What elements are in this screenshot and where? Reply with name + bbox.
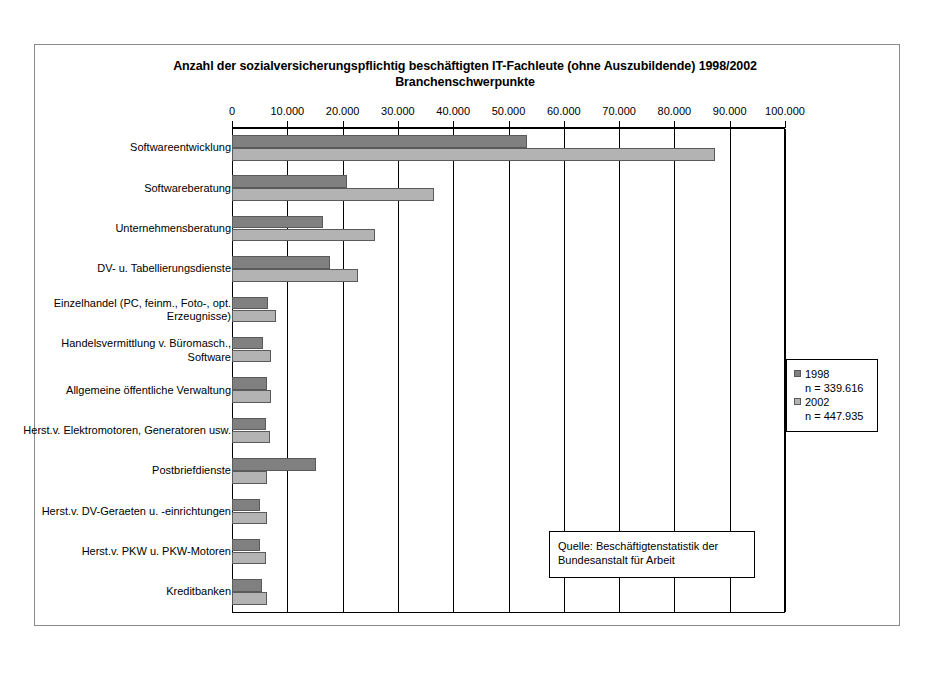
bar-group: [232, 411, 785, 451]
bar-2002: [232, 310, 276, 323]
chart-title: Anzahl der sozialversicherungspflichtig …: [60, 58, 870, 90]
bar-2002: [232, 269, 358, 282]
legend-label-2002: 2002: [805, 395, 829, 409]
source-note-line1: Quelle: Beschäftigtenstatistik der: [558, 539, 746, 553]
bar-1998: [232, 175, 347, 188]
x-axis-tick-label: 80.000: [658, 105, 692, 117]
x-axis-tick: [453, 121, 454, 128]
category-label: Herst.v. PKW u. PKW-Motoren: [16, 545, 231, 559]
legend-label-1998: 1998: [805, 367, 829, 381]
x-axis-tick-label: 10.000: [270, 105, 304, 117]
x-axis-tick-label: 90.000: [713, 105, 747, 117]
x-axis-tick-label: 70.000: [602, 105, 636, 117]
bar-2002: [232, 471, 267, 484]
x-axis-tick: [343, 121, 344, 128]
bar-group: [232, 492, 785, 532]
source-note-line2: Bundesanstalt für Arbeit: [558, 553, 746, 567]
x-axis-tick-label: 100.000: [765, 105, 805, 117]
legend-item-2002: 2002: [794, 395, 871, 409]
x-axis-tick: [785, 121, 786, 128]
bar-1998: [232, 539, 260, 552]
chart-title-line1: Anzahl der sozialversicherungspflichtig …: [60, 58, 870, 74]
x-axis-tick: [232, 121, 233, 128]
x-axis-tick: [674, 121, 675, 128]
bar-group: [232, 451, 785, 491]
bar-group: [232, 249, 785, 289]
bar-2002: [232, 552, 266, 565]
bar-2002: [232, 350, 271, 363]
x-axis-tick: [564, 121, 565, 128]
x-axis-tick-label: 60.000: [547, 105, 581, 117]
legend-item-1998: 1998: [794, 367, 871, 381]
x-axis-tick-label: 30.000: [381, 105, 415, 117]
bar-1998: [232, 337, 263, 350]
chart-category-row: Herst.v. PKW u. PKW-Motoren: [0, 532, 934, 572]
bar-1998: [232, 216, 323, 229]
bar-1998: [232, 418, 266, 431]
bar-group: [232, 330, 785, 370]
bar-1998: [232, 297, 268, 310]
category-label: Softwareberatung: [16, 182, 231, 196]
x-axis-tick-label: 20.000: [326, 105, 360, 117]
chart-category-row: Herst.v. DV-Geraeten u. -einrichtungen: [0, 492, 934, 532]
chart-category-row: Softwareentwicklung: [0, 128, 934, 168]
category-label: Allgemeine öffentliche Verwaltung: [16, 384, 231, 398]
bar-1998: [232, 458, 316, 471]
x-axis-tick-label: 50.000: [492, 105, 526, 117]
bar-1998: [232, 135, 527, 148]
chart-category-row: Kreditbanken: [0, 572, 934, 612]
x-axis-tick: [619, 121, 620, 128]
bar-2002: [232, 431, 270, 444]
chart-category-row: Einzelhandel (PC, feinm., Foto-, opt. Er…: [0, 290, 934, 330]
category-label: Herst.v. DV-Geraeten u. -einrichtungen: [16, 505, 231, 519]
bar-2002: [232, 390, 271, 403]
category-label: Einzelhandel (PC, feinm., Foto-, opt. Er…: [16, 296, 231, 323]
bar-group: [232, 572, 785, 612]
bar-group: [232, 290, 785, 330]
chart-legend: 1998 n = 339.616 2002 n = 447.935: [786, 359, 878, 432]
x-axis-tick-label: 0: [229, 105, 235, 117]
legend-swatch-1998-icon: [794, 370, 801, 377]
category-label: DV- u. Tabellierungsdienste: [16, 263, 231, 277]
legend-n-1998: n = 339.616: [805, 381, 871, 395]
bar-1998: [232, 499, 260, 512]
chart-page: Anzahl der sozialversicherungspflichtig …: [0, 0, 934, 675]
x-axis-tick: [398, 121, 399, 128]
x-axis-tick: [287, 121, 288, 128]
bar-2002: [232, 229, 375, 242]
bar-2002: [232, 188, 434, 201]
bar-1998: [232, 377, 267, 390]
x-axis-tick-label: 40.000: [436, 105, 470, 117]
bar-2002: [232, 592, 267, 605]
bar-group: [232, 128, 785, 168]
category-label: Postbriefdienste: [16, 465, 231, 479]
bar-1998: [232, 579, 262, 592]
bar-group: [232, 209, 785, 249]
bar-2002: [232, 148, 715, 161]
bar-1998: [232, 256, 330, 269]
bar-group: [232, 168, 785, 208]
chart-category-row: Unternehmensberatung: [0, 209, 934, 249]
chart-category-row: Postbriefdienste: [0, 451, 934, 491]
chart-title-line2: Branchenschwerpunkte: [60, 74, 870, 90]
bar-group: [232, 370, 785, 410]
category-label: Unternehmensberatung: [16, 222, 231, 236]
source-note-box: Quelle: Beschäftigtenstatistik der Bunde…: [549, 531, 755, 578]
category-label: Softwareentwicklung: [16, 141, 231, 155]
chart-category-row: DV- u. Tabellierungsdienste: [0, 249, 934, 289]
legend-swatch-2002-icon: [794, 398, 801, 405]
chart-category-row: Softwareberatung: [0, 168, 934, 208]
category-label: Handelsvermittlung v. Büromasch., Softwa…: [16, 337, 231, 364]
category-label: Herst.v. Elektromotoren, Generatoren usw…: [16, 424, 231, 438]
category-label: Kreditbanken: [16, 586, 231, 600]
bar-2002: [232, 512, 267, 525]
x-axis-tick: [730, 121, 731, 128]
x-axis-tick: [509, 121, 510, 128]
legend-n-2002: n = 447.935: [805, 409, 871, 423]
